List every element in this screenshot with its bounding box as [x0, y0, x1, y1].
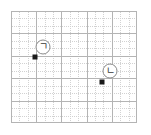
- gridline-minor-horizontal: [11, 93, 137, 95]
- gridline-minor-horizontal: [11, 108, 137, 110]
- gridline-minor-horizontal: [11, 116, 137, 118]
- gridline-major-horizontal: [11, 56, 137, 57]
- gridline-major-vertical: [11, 11, 12, 123]
- point-marker-point-b: [100, 80, 105, 85]
- point-label-point-b: ㄴ: [103, 64, 118, 79]
- gridline-major-vertical: [36, 11, 37, 123]
- point-label-text: ㄴ: [106, 66, 115, 76]
- diagram-canvas: ㄱㄴ: [0, 0, 151, 135]
- point-label-point-a: ㄱ: [36, 40, 51, 55]
- gridline-major-vertical: [87, 11, 88, 123]
- coordinate-grid: [11, 11, 137, 123]
- gridline-major-vertical: [136, 11, 137, 123]
- gridline-minor-horizontal: [11, 86, 137, 88]
- gridline-major-horizontal: [11, 78, 137, 79]
- gridline-minor-horizontal: [11, 71, 137, 73]
- gridline-major-horizontal: [11, 33, 137, 34]
- gridline-minor-horizontal: [11, 63, 137, 65]
- gridline-major-horizontal: [11, 11, 137, 12]
- gridline-minor-horizontal: [11, 41, 137, 43]
- gridline-major-horizontal: [11, 122, 137, 123]
- gridline-minor-horizontal: [11, 26, 137, 28]
- gridline-major-horizontal: [11, 101, 137, 102]
- point-label-text: ㄱ: [39, 42, 48, 52]
- gridline-minor-horizontal: [11, 48, 137, 50]
- gridline-major-vertical: [61, 11, 62, 123]
- point-marker-point-a: [33, 55, 38, 60]
- gridline-minor-horizontal: [11, 18, 137, 20]
